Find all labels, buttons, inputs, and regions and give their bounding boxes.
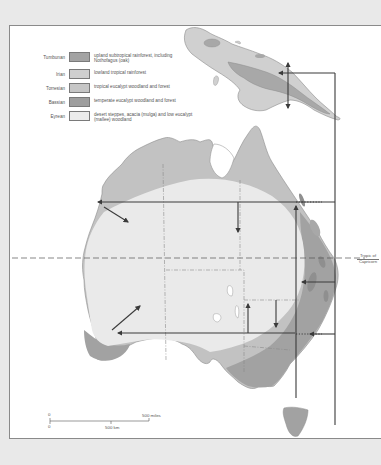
scale-zero-km: 0 [48,424,50,429]
legend-swatch [69,69,90,79]
legend-name: Bassian [30,96,65,105]
legend-swatch [69,83,90,93]
legend-item-eyrean: Eyrean desert steppes, acacia (mulga) an… [30,110,200,127]
legend-swatch [69,97,90,107]
tropic-label-line2: Capricorn [357,259,379,265]
scale-miles-label: 500 miles [142,413,161,418]
legend-name: Irian [30,68,65,77]
legend-description: lowland tropical rainforest [94,68,194,75]
legend-description: desert steppes, acacia (mulga) and low e… [94,110,194,123]
tasmania [283,407,308,436]
scale-zero-miles: 0 [48,412,50,417]
australia [83,126,339,388]
legend-name: Torresian [30,82,65,91]
scale-bar-graphic [47,412,157,432]
legend-item-bassian: Bassian temperate eucalypt woodland and … [30,96,200,110]
legend-item-irian: Irian lowland tropical rainforest [30,68,200,82]
legend-name: Tumbunan [30,51,65,60]
legend-swatch [69,52,90,62]
new-guinea [184,28,340,120]
legend-item-torresian: Torresian tropical eucalypt woodland and… [30,82,200,96]
legend-description: tropical eucalypt woodland and forest [94,82,194,89]
legend-item-tumbunan: Tumbunan upland subtropical rainforest, … [30,51,200,68]
scale-km-label: 500 km [105,425,119,430]
scale-bar: 0 0 500 miles 500 km [47,412,157,432]
legend: Tumbunan upland subtropical rainforest, … [30,51,200,127]
legend-description: upland subtropical rainforest, including… [94,51,194,64]
legend-name: Eyrean [30,110,65,119]
legend-description: temperate eucalypt woodland and forest [94,96,194,103]
tropic-of-capricorn-label: Tropic of Capricorn [357,254,379,265]
legend-swatch [69,111,90,121]
